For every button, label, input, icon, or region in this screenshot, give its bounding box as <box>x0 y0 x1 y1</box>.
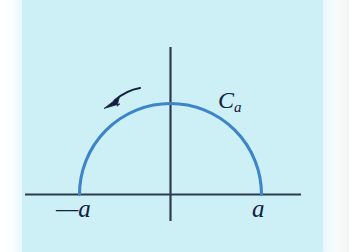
contour-label-c-sub-a: Ca <box>218 88 242 115</box>
contour-diagram <box>0 0 349 252</box>
direction-arrow-icon <box>104 88 140 109</box>
figure-container: —a a Ca <box>0 0 349 252</box>
x-axis-label-positive-a: a <box>252 196 265 221</box>
contour-label-subscript: a <box>234 99 242 115</box>
x-axis-label-negative-a: —a <box>56 196 91 221</box>
contour-label-base: C <box>218 87 234 113</box>
